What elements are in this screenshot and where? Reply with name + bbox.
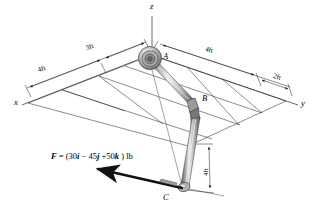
dim-ext-bc-bottom — [187, 190, 214, 193]
force-j-coefficient: 45 — [88, 151, 97, 161]
axis-label-z: z — [150, 2, 153, 11]
force-i-coefficient: 30 — [69, 151, 78, 161]
force-units: lb — [126, 151, 133, 161]
axis-label-x: x — [14, 98, 18, 107]
force-vector-arrow — [98, 169, 182, 188]
dim-ext-right-outer — [288, 84, 292, 96]
figure-canvas — [0, 0, 322, 219]
force-k-coefficient: 50 — [106, 151, 115, 161]
projection-a-to-ground — [150, 62, 182, 186]
grid-line-y-1 — [63, 90, 125, 111]
dimension-lines-right — [152, 41, 292, 96]
dimension-label-4ft-vertical: 4ft — [203, 168, 210, 176]
rod-segment-bc — [181, 117, 200, 186]
force-equation: F = (30i − 45j +50k ) lb — [51, 152, 133, 161]
point-label-b: B — [202, 94, 207, 103]
dim-ext-right-mid — [256, 73, 261, 86]
dim-arrow-2ft — [262, 80, 288, 89]
force-arrow-shaft — [98, 169, 182, 188]
grid-line-y-4 — [222, 79, 262, 113]
axis-label-y: y — [301, 99, 305, 108]
point-label-a: A — [163, 52, 168, 61]
ball-socket-joint-a — [139, 47, 162, 70]
grid-line-y-2 — [99, 76, 163, 124]
statics-figure: z x y A B C 4ft 3ft 4ft 2ft 4ft F = (30i… — [0, 0, 322, 219]
joint-a-socket-hole — [148, 57, 153, 62]
force-equals: = — [57, 151, 66, 161]
dim-ext-left-mid — [101, 63, 106, 73]
point-label-c: C — [163, 193, 169, 202]
